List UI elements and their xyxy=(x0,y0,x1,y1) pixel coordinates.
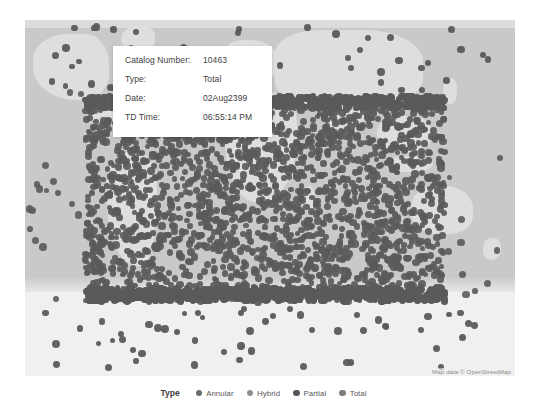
eclipse-marker-dot[interactable] xyxy=(391,114,397,120)
eclipse-marker-dot[interactable] xyxy=(211,165,218,172)
eclipse-marker-dot[interactable] xyxy=(166,297,171,302)
eclipse-marker-dot[interactable] xyxy=(131,170,137,176)
eclipse-marker-dot[interactable] xyxy=(312,97,318,103)
eclipse-marker-dot[interactable] xyxy=(237,342,245,350)
eclipse-marker-dot[interactable] xyxy=(159,146,167,154)
eclipse-marker-dot[interactable] xyxy=(368,171,375,178)
eclipse-marker-dot[interactable] xyxy=(339,208,346,215)
eclipse-marker-dot[interactable] xyxy=(223,180,229,186)
eclipse-marker-dot[interactable] xyxy=(416,140,421,145)
eclipse-marker-dot[interactable] xyxy=(394,214,400,220)
eclipse-marker-dot[interactable] xyxy=(401,242,406,247)
eclipse-marker-dot[interactable] xyxy=(280,190,287,197)
eclipse-marker-dot[interactable] xyxy=(203,151,210,158)
eclipse-marker-dot[interactable] xyxy=(141,173,147,179)
eclipse-marker-dot[interactable] xyxy=(187,248,194,255)
eclipse-marker-dot[interactable] xyxy=(144,233,150,239)
eclipse-marker-dot[interactable] xyxy=(220,264,226,270)
eclipse-marker-dot[interactable] xyxy=(265,277,272,284)
eclipse-marker-dot[interactable] xyxy=(100,239,106,245)
eclipse-marker-dot[interactable] xyxy=(154,266,159,271)
eclipse-marker-dot[interactable] xyxy=(158,296,164,302)
eclipse-marker-dot[interactable] xyxy=(188,236,196,244)
eclipse-marker-dot[interactable] xyxy=(288,201,296,209)
eclipse-marker-dot[interactable] xyxy=(237,218,242,223)
eclipse-marker-dot[interactable] xyxy=(50,178,57,185)
eclipse-marker-dot[interactable] xyxy=(94,184,99,189)
eclipse-marker-dot[interactable] xyxy=(388,162,394,168)
eclipse-marker-dot[interactable] xyxy=(410,210,416,216)
eclipse-marker-dot[interactable] xyxy=(191,361,198,368)
eclipse-marker-dot[interactable] xyxy=(146,139,151,144)
eclipse-marker-dot[interactable] xyxy=(332,30,339,37)
eclipse-marker-dot[interactable] xyxy=(147,202,153,208)
eclipse-marker-dot[interactable] xyxy=(32,237,39,244)
eclipse-marker-dot[interactable] xyxy=(370,248,376,254)
eclipse-marker-dot[interactable] xyxy=(132,155,139,162)
eclipse-marker-dot[interactable] xyxy=(174,329,180,335)
eclipse-marker-dot[interactable] xyxy=(372,150,378,156)
eclipse-marker-dot[interactable] xyxy=(363,223,368,228)
eclipse-marker-dot[interactable] xyxy=(124,296,131,303)
eclipse-marker-dot[interactable] xyxy=(387,195,395,203)
eclipse-marker-dot[interactable] xyxy=(109,184,115,190)
eclipse-marker-dot[interactable] xyxy=(49,78,56,85)
eclipse-marker-dot[interactable] xyxy=(357,47,363,53)
eclipse-marker-dot[interactable] xyxy=(240,177,246,183)
eclipse-marker-dot[interactable] xyxy=(241,296,249,304)
eclipse-marker-dot[interactable] xyxy=(281,175,287,181)
eclipse-marker-dot[interactable] xyxy=(439,189,445,195)
eclipse-marker-dot[interactable] xyxy=(145,321,153,329)
eclipse-marker-dot[interactable] xyxy=(154,202,161,209)
eclipse-marker-dot[interactable] xyxy=(115,174,122,181)
eclipse-marker-dot[interactable] xyxy=(431,261,437,267)
eclipse-marker-dot[interactable] xyxy=(333,132,340,139)
eclipse-marker-dot[interactable] xyxy=(343,359,351,367)
eclipse-marker-dot[interactable] xyxy=(313,244,319,250)
eclipse-marker-dot[interactable] xyxy=(243,223,248,228)
eclipse-marker-dot[interactable] xyxy=(316,133,322,139)
eclipse-marker-dot[interactable] xyxy=(98,156,105,163)
eclipse-marker-dot[interactable] xyxy=(96,248,102,254)
eclipse-marker-dot[interactable] xyxy=(52,340,60,348)
eclipse-marker-dot[interactable] xyxy=(160,237,166,243)
eclipse-marker-dot[interactable] xyxy=(346,118,352,124)
eclipse-marker-dot[interactable] xyxy=(322,172,327,177)
eclipse-marker-dot[interactable] xyxy=(62,44,70,52)
eclipse-marker-dot[interactable] xyxy=(42,310,49,317)
eclipse-marker-dot[interactable] xyxy=(332,224,338,230)
eclipse-marker-dot[interactable] xyxy=(480,52,486,58)
eclipse-marker-dot[interactable] xyxy=(229,195,237,203)
eclipse-marker-dot[interactable] xyxy=(262,224,267,229)
eclipse-marker-dot[interactable] xyxy=(398,132,404,138)
eclipse-marker-dot[interactable] xyxy=(385,103,391,109)
eclipse-marker-dot[interactable] xyxy=(265,187,272,194)
eclipse-marker-dot[interactable] xyxy=(242,261,249,268)
eclipse-marker-dot[interactable] xyxy=(437,276,444,283)
eclipse-marker-dot[interactable] xyxy=(99,135,106,142)
eclipse-marker-dot[interactable] xyxy=(99,198,105,204)
eclipse-marker-dot[interactable] xyxy=(124,279,130,285)
eclipse-marker-dot[interactable] xyxy=(309,195,315,201)
eclipse-marker-dot[interactable] xyxy=(92,177,97,182)
eclipse-marker-dot[interactable] xyxy=(363,140,368,145)
eclipse-marker-dot[interactable] xyxy=(284,286,290,292)
eclipse-marker-dot[interactable] xyxy=(358,124,365,131)
eclipse-marker-dot[interactable] xyxy=(457,239,464,246)
eclipse-marker-dot[interactable] xyxy=(85,198,91,204)
eclipse-marker-dot[interactable] xyxy=(303,285,310,292)
eclipse-marker-dot[interactable] xyxy=(177,297,184,304)
eclipse-marker-dot[interactable] xyxy=(427,186,432,191)
eclipse-marker-dot[interactable] xyxy=(87,131,94,138)
eclipse-marker-dot[interactable] xyxy=(316,141,322,147)
eclipse-marker-dot[interactable] xyxy=(198,195,206,203)
eclipse-marker-dot[interactable] xyxy=(172,176,178,182)
eclipse-marker-dot[interactable] xyxy=(186,202,191,207)
eclipse-marker-dot[interactable] xyxy=(231,255,239,263)
eclipse-marker-dot[interactable] xyxy=(424,313,432,321)
eclipse-marker-dot[interactable] xyxy=(418,186,425,193)
eclipse-marker-dot[interactable] xyxy=(185,272,193,280)
eclipse-marker-dot[interactable] xyxy=(424,238,432,246)
eclipse-marker-dot[interactable] xyxy=(67,89,73,95)
eclipse-marker-dot[interactable] xyxy=(238,272,244,278)
